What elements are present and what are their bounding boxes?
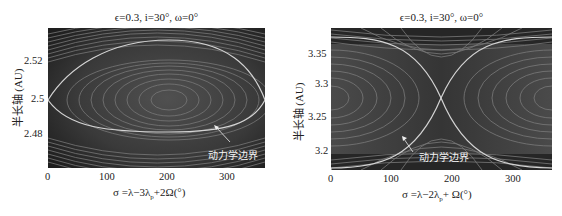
left-contour-plot: 动力学边界 (48, 28, 265, 168)
left-x-tick-200: 200 (159, 171, 175, 182)
right-x-axis-label-main: σ =λ−2λ (402, 188, 439, 200)
left-chart-title: ϵ=0.3, i=30°, ω=0° (48, 11, 265, 23)
right-chart-title: ϵ=0.3, i=30°, ω=0° (331, 11, 552, 23)
right-y-axis-label: 半长轴 (AU) (290, 77, 306, 147)
left-y-tick-2.5: 2.5 (31, 93, 44, 104)
left-chart-panel: ϵ=0.3, i=30°, ω=0° 半长轴 (AU) 2.52 2.5 2.4… (0, 0, 281, 216)
right-x-tick-0: 0 (328, 173, 333, 184)
right-y-tick-3.25: 3.25 (308, 111, 326, 122)
left-x-axis-label-main: σ =λ−3λ (113, 186, 150, 198)
right-x-axis-label-tail: + Ω(°) (443, 188, 472, 200)
right-x-axis-label: σ =λ−2λp+ Ω(°) (402, 188, 472, 203)
right-x-tick-200: 200 (444, 173, 460, 184)
right-y-tick-3.3: 3.3 (315, 78, 328, 89)
left-y-tick-2.48: 2.48 (24, 128, 42, 139)
right-annotation-label: 动力学边界 (419, 151, 469, 163)
right-x-tick-300: 300 (505, 173, 521, 184)
left-x-axis-label-tail: +2Ω(°) (154, 186, 186, 198)
left-x-tick-0: 0 (45, 171, 50, 182)
right-chart-panel: ϵ=0.3, i=30°, ω=0° 半长轴 (AU) 3.35 3.3 3.2… (281, 0, 562, 216)
left-annotation-label: 动力学边界 (208, 149, 258, 161)
right-contour-plot: 动力学边界 (331, 28, 552, 170)
left-x-tick-300: 300 (219, 171, 235, 182)
left-y-axis-label: 半长轴 (AU) (9, 63, 25, 133)
left-y-tick-2.52: 2.52 (24, 55, 42, 66)
left-x-axis-label: σ =λ−3λp+2Ω(°) (113, 186, 185, 201)
right-y-tick-3.2: 3.2 (315, 145, 328, 156)
left-x-tick-100: 100 (99, 171, 115, 182)
right-x-tick-100: 100 (383, 173, 399, 184)
right-y-tick-3.35: 3.35 (308, 48, 326, 59)
